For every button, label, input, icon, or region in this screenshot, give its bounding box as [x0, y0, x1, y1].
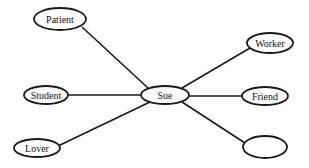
edge-sue-empty	[182, 102, 245, 143]
node-label-lover: Lover	[25, 143, 50, 154]
node-worker: Worker	[247, 33, 293, 53]
node-empty	[243, 136, 287, 158]
node-label-worker: Worker	[255, 38, 285, 49]
role-network-diagram: Patient Worker Student Sue Friend Lover	[0, 0, 309, 168]
node-label-student: Student	[31, 90, 62, 101]
node-patient: Patient	[34, 8, 86, 30]
edge-sue-patient	[82, 27, 148, 88]
node-sue: Sue	[141, 86, 189, 104]
node-student: Student	[24, 86, 68, 104]
node-label-friend: Friend	[252, 91, 278, 102]
edge-sue-lover	[58, 102, 150, 146]
node-label-patient: Patient	[46, 14, 74, 25]
node-lover: Lover	[14, 139, 60, 157]
node-friend: Friend	[242, 87, 288, 105]
node-label-sue: Sue	[158, 90, 174, 101]
edge-sue-worker	[182, 48, 250, 88]
